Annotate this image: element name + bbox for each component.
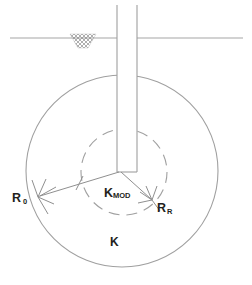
label-kmod: K MOD <box>104 186 131 200</box>
pile-stiffness-diagram: R 0 R R K MOD K <box>0 0 252 285</box>
label-k: K <box>110 235 119 249</box>
label-r0-main: R <box>12 191 21 205</box>
label-kmod-subscript: MOD <box>113 191 131 200</box>
pile-shaft <box>117 5 137 172</box>
r0-arrowhead <box>32 179 56 214</box>
ground-hatch-symbol <box>68 33 98 49</box>
label-rr-subscript: R <box>167 207 173 216</box>
label-rr-main: R <box>157 201 166 215</box>
label-kmod-main: K <box>104 186 113 200</box>
diagram-canvas: R 0 R R K MOD K <box>0 0 252 285</box>
label-rr: R R <box>157 201 173 216</box>
label-r0: R 0 <box>12 191 27 206</box>
label-r0-subscript: 0 <box>23 197 27 206</box>
